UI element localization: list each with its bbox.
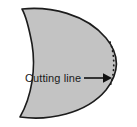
figure-canvas: Cutting line [0, 0, 137, 127]
cutting-line-label: Cutting line [25, 72, 81, 84]
cutting-line-figure: Cutting line [0, 0, 137, 127]
